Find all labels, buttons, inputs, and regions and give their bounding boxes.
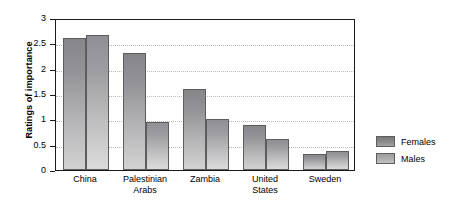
bar-females-2 [183, 89, 206, 170]
bar-chart: Ratings of importance 00.511.522.53 Chin… [0, 0, 451, 210]
legend-label-males: Males [401, 154, 425, 164]
legend-item-males[interactable]: Males [376, 153, 436, 164]
legend-item-females[interactable]: Females [376, 136, 436, 147]
y-axis-tick-label: 0.5 [0, 141, 46, 150]
bar-males-0 [86, 35, 109, 170]
y-axis-tick-label: 2.5 [0, 39, 46, 48]
bar-males-4 [326, 151, 349, 170]
y-axis-tick-label: 3 [0, 14, 46, 23]
y-axis-tick-label: 0 [0, 166, 46, 175]
x-axis-category-label: China [55, 174, 115, 185]
x-axis-category-label: Sweden [295, 174, 355, 185]
plot-area [55, 19, 355, 171]
x-axis-category-label: United States [235, 174, 295, 196]
bar-females-3 [243, 125, 266, 170]
legend-swatch-females-icon [376, 136, 395, 147]
bar-males-3 [266, 139, 289, 170]
y-axis-tick-label: 2 [0, 65, 46, 74]
y-axis-tick [50, 171, 55, 172]
bar-males-2 [206, 119, 229, 170]
legend-label-females: Females [401, 137, 436, 147]
y-axis-tick-label: 1.5 [0, 90, 46, 99]
bar-females-0 [63, 38, 86, 170]
legend-swatch-males-icon [376, 153, 395, 164]
bar-females-4 [303, 154, 326, 170]
x-axis-category-label: Zambia [175, 174, 235, 185]
bar-females-1 [123, 53, 146, 170]
legend: Females Males [376, 136, 436, 170]
x-axis-category-label: Palestinian Arabs [115, 174, 175, 196]
y-axis-tick-label: 1 [0, 115, 46, 124]
bar-males-1 [146, 122, 169, 170]
